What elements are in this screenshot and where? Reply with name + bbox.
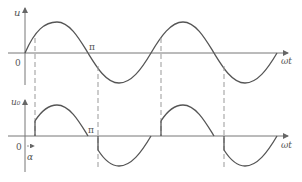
- bottom-x-label: ωt: [281, 140, 292, 150]
- bottom-plot: u₀ 0 π ωt α: [8, 97, 292, 172]
- waveform-diagram: u 0 π ωt u₀ 0 π ωt α: [0, 0, 302, 182]
- top-y-label: u: [14, 7, 20, 18]
- top-x-label: ωt: [281, 56, 292, 66]
- alpha-label: α: [27, 152, 33, 162]
- top-plot: u 0 π ωt: [8, 7, 292, 85]
- top-pi-label: π: [89, 42, 95, 52]
- bottom-pi-label: π: [88, 125, 94, 135]
- trigger-guides: [35, 38, 224, 168]
- bottom-y-label: u₀: [11, 97, 21, 107]
- bottom-origin-label: 0: [16, 142, 22, 152]
- top-origin-label: 0: [15, 58, 21, 68]
